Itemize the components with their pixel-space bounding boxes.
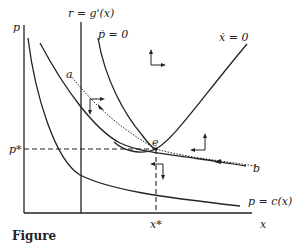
y-axis-label: p [13,21,20,34]
direction-arrows-near-a [88,97,105,115]
point-b-label: b [253,162,260,175]
equilibrium-label: e [152,136,159,149]
direction-arrows-upper-right [149,49,166,67]
marginal-condition-label: r = g'(x) [68,7,114,20]
point-a-label: a [66,68,73,81]
saddle-path-a [70,75,156,149]
x-star-label: x* [150,218,162,231]
direction-arrows-right-of-e [190,133,207,152]
x-axis-label: x [260,218,267,231]
p-star-label: p* [9,143,22,156]
p-dot-zero-label: ṗ = 0 [98,28,128,41]
axes [24,25,252,213]
figure-caption: Figure [12,229,56,243]
saddle-path-b [156,149,255,166]
cost-curve [28,38,240,206]
x-dot-zero-curve [114,44,247,152]
p-dot-zero-left-branch [40,43,246,166]
path-a-arrowhead [98,104,104,110]
p-dot-zero-curve [98,38,156,149]
x-dot-zero-label: ẋ = 0 [219,31,248,44]
cost-curve-label: p = c(x) [248,195,292,208]
direction-arrows-below-e [150,162,165,180]
